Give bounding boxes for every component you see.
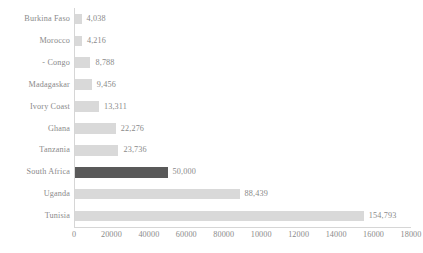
bar [74,14,82,25]
bar-chart: Burkina Faso4,038Morocco4,216- Congo8,78… [0,0,423,253]
bar [74,211,364,222]
category-label: Morocco [39,30,70,52]
category-label: Ivory Coast [30,96,70,118]
x-axis-tick-label: 16000 [363,230,384,239]
x-axis-tick-label: 60000 [176,230,197,239]
bar-row: Burkina Faso4,038 [74,8,411,30]
bar-value-label: 22,276 [121,118,144,140]
bar-highlighted [74,167,168,178]
bar-row: Uganda88,439 [74,183,411,205]
x-axis-tick-label: 40000 [138,230,159,239]
y-axis-line [74,8,75,227]
bar-value-label: 4,038 [87,8,106,30]
bar-value-label: 9,456 [97,74,116,96]
bar-value-label: 8,788 [95,52,114,74]
bar-row: Tanzania23,736 [74,139,411,161]
category-label: Madagaskar [28,74,70,96]
x-axis-tick-label: 10000 [251,230,272,239]
x-axis-tick-label: 80000 [213,230,234,239]
bar-value-label: 4,216 [87,30,106,52]
bar [74,123,116,134]
bar [74,101,99,112]
bar-value-label: 88,439 [245,183,268,205]
bar [74,145,118,156]
category-label: Uganda [44,183,70,205]
bar-row: Tunisia154,793 [74,205,411,227]
category-label: South Africa [27,161,70,183]
bar [74,36,82,47]
x-axis-line [74,227,411,228]
x-axis-tick-label: 14000 [326,230,347,239]
x-axis-tick-label: 20000 [101,230,122,239]
bar [74,57,90,68]
bar-row: Ghana22,276 [74,118,411,140]
plot-area: Burkina Faso4,038Morocco4,216- Congo8,78… [74,8,411,227]
bar-row: Ivory Coast13,311 [74,96,411,118]
bar-row: Madagaskar9,456 [74,74,411,96]
bar [74,79,92,90]
bar [74,189,240,200]
x-axis-tick-label: 18000 [401,230,422,239]
x-axis-tick-label: 12000 [288,230,309,239]
bar-value-label: 50,000 [173,161,196,183]
category-label: Tunisia [45,205,70,227]
bar-value-label: 13,311 [104,96,127,118]
category-label: Burkina Faso [24,8,70,30]
bar-row: - Congo8,788 [74,52,411,74]
category-label: Ghana [48,118,70,140]
bar-value-label: 154,793 [369,205,397,227]
bar-row: South Africa50,000 [74,161,411,183]
bar-value-label: 23,736 [123,139,146,161]
x-axis-tick-label: 0 [72,230,76,239]
bar-row: Morocco4,216 [74,30,411,52]
category-label: Tanzania [39,139,70,161]
category-label: - Congo [42,52,70,74]
x-axis-tick-labels: 0200004000060000800001000012000140001600… [74,230,411,244]
